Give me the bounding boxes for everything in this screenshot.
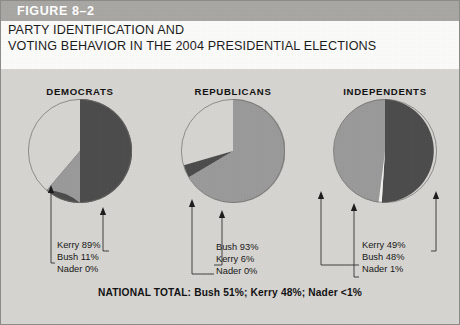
label-row: Kerry 89% (57, 239, 100, 251)
label-name: Kerry (57, 239, 79, 251)
label-row: Nader 0% (57, 263, 100, 275)
label-name: Nader (362, 263, 387, 275)
pie-democrats (28, 99, 132, 203)
label-name: Nader (216, 265, 241, 277)
label-value: 0% (85, 263, 98, 275)
wedge-independents-kerry (382, 99, 434, 203)
label-row: Nader 0% (216, 265, 258, 277)
pie-republicans (181, 99, 285, 203)
label-row: Kerry 6% (216, 253, 258, 265)
chart-panel-democrats: DEMOCRATS (5, 69, 155, 285)
label-value: 6% (241, 253, 254, 265)
national-total-text: NATIONAL TOTAL: Bush 51%; Kerry 48%; Nad… (1, 287, 459, 298)
label-value: 0% (244, 265, 257, 277)
chart-title-independents: INDEPENDENTS (310, 86, 460, 97)
labels-independents: Kerry 49% Bush 48% Nader 1% (362, 239, 405, 276)
label-value: 89% (82, 239, 101, 251)
chart-panel-independents: INDEPENDENTS (310, 69, 460, 285)
wedge-independents-bush (334, 99, 385, 203)
figure-number-label: FIGURE 8–2 (17, 4, 95, 18)
wedge-republicans-bush (189, 99, 285, 203)
label-row: Bush 48% (362, 251, 405, 263)
label-row: Kerry 49% (362, 239, 405, 251)
label-name: Nader (57, 263, 82, 275)
label-row: Nader 1% (362, 263, 405, 275)
label-name: Bush (216, 241, 237, 253)
label-name: Bush (57, 251, 78, 263)
pie-independents (333, 99, 437, 203)
chart-title-republicans: REPUBLICANS (158, 86, 308, 97)
chart-title-democrats: DEMOCRATS (5, 86, 155, 97)
label-value: 93% (240, 241, 259, 253)
label-name: Bush (362, 251, 383, 263)
label-value: 11% (81, 251, 99, 263)
pie-independents-svg (333, 99, 437, 203)
label-row: Bush 11% (57, 251, 100, 263)
label-name: Kerry (362, 239, 384, 251)
label-name: Kerry (216, 253, 238, 265)
labels-democrats: Kerry 89% Bush 11% Nader 0% (57, 239, 100, 276)
figure-title: PARTY IDENTIFICATION AND VOTING BEHAVIOR… (8, 23, 448, 54)
pie-republicans-svg (181, 99, 285, 203)
charts-row: DEMOCRATS (1, 69, 459, 285)
label-value: 1% (390, 263, 403, 275)
label-value: 48% (386, 251, 405, 263)
figure-container: FIGURE 8–2 PARTY IDENTIFICATION AND VOTI… (0, 0, 460, 325)
label-value: 49% (387, 239, 406, 251)
chart-panel-republicans: REPUBLICANS (158, 69, 308, 285)
labels-republicans: Bush 93% Kerry 6% Nader 0% (216, 241, 258, 278)
label-row: Bush 93% (216, 241, 258, 253)
pie-democrats-svg (28, 99, 132, 203)
